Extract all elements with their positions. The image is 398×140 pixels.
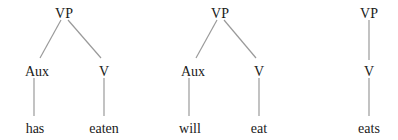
edge-vp-v — [68, 20, 101, 58]
syntax-tree-diagram: VP Aux V has eaten VP Aux V will eat VP … — [0, 0, 398, 140]
node-aux: Aux — [25, 64, 49, 79]
tree-has-eaten: VP Aux V has eaten — [25, 6, 119, 136]
node-v: V — [364, 64, 374, 79]
leaf-eat: eat — [251, 121, 267, 136]
node-aux: Aux — [181, 64, 205, 79]
edge-vp-v — [224, 20, 256, 58]
node-v: V — [99, 64, 109, 79]
edge-vp-aux — [196, 20, 217, 58]
node-v: V — [254, 64, 264, 79]
leaf-will: will — [179, 121, 201, 136]
leaf-eaten: eaten — [89, 121, 119, 136]
node-vp: VP — [360, 6, 378, 21]
node-vp: VP — [211, 6, 229, 21]
tree-eats: VP V eats — [358, 6, 380, 136]
tree-will-eat: VP Aux V will eat — [179, 6, 267, 136]
leaf-eats: eats — [358, 121, 380, 136]
leaf-has: has — [26, 121, 45, 136]
edge-vp-aux — [40, 20, 61, 58]
node-vp: VP — [55, 6, 73, 21]
